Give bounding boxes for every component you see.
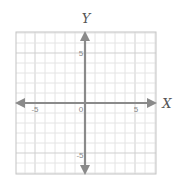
x-axis-label: X — [161, 96, 172, 111]
coordinate-plane: -5 0 5 5 -5 Y X — [0, 0, 177, 181]
y-axis-label: Y — [82, 11, 92, 26]
y-tick-label-neg5: -5 — [76, 151, 84, 160]
origin-label: 0 — [79, 105, 84, 114]
x-tick-label-pos5: 5 — [134, 105, 139, 114]
x-tick-label-neg5: -5 — [31, 105, 39, 114]
y-tick-label-pos5: 5 — [79, 49, 84, 58]
